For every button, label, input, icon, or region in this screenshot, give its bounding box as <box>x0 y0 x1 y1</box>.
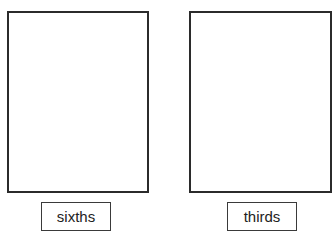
right-rectangle <box>189 11 332 193</box>
left-rectangle <box>7 11 149 193</box>
left-label-text: sixths <box>57 208 95 225</box>
right-label-box: thirds <box>227 202 297 231</box>
right-label-text: thirds <box>244 208 281 225</box>
left-label-box: sixths <box>41 202 111 231</box>
